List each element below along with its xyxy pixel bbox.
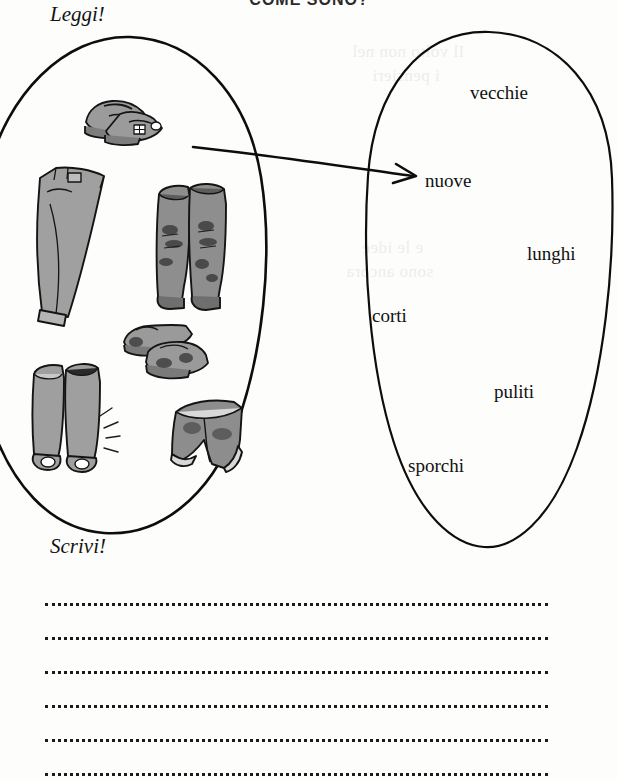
word-sporchi[interactable]: sporchi <box>408 455 464 477</box>
writing-line[interactable] <box>45 708 548 742</box>
trousers-long-illustration <box>20 162 112 332</box>
writing-line[interactable] <box>45 606 548 640</box>
writing-line[interactable] <box>45 572 548 606</box>
word-vecchie[interactable]: vecchie <box>470 82 528 104</box>
worksheet-page: Il volto non nel i pensieri e le idee so… <box>0 0 618 779</box>
bleed-through-text: sono ancora <box>346 262 433 282</box>
word-corti[interactable]: corti <box>372 305 407 327</box>
shorts-short-illustration <box>162 394 252 476</box>
shoes-clean-illustration <box>74 88 184 148</box>
word-oval-outline <box>366 32 612 547</box>
shoes-dirty-illustration <box>118 318 214 388</box>
picture-oval-outline <box>0 37 266 533</box>
writing-lines <box>45 572 548 776</box>
boots-dirty-illustration <box>150 178 236 318</box>
bleed-through-text: i pensieri <box>372 66 440 86</box>
writing-line[interactable] <box>45 674 548 708</box>
writing-line[interactable] <box>45 640 548 674</box>
writing-line[interactable] <box>45 742 548 776</box>
boots-clean-illustration <box>28 358 122 478</box>
match-arrow <box>193 147 416 183</box>
scrivi-label: Scrivi! <box>50 534 106 559</box>
word-nuove[interactable]: nuove <box>425 170 471 192</box>
bleed-through-text: e le idee <box>362 238 423 258</box>
bleed-through-text: Il volto non nel <box>352 42 464 62</box>
word-lunghi[interactable]: lunghi <box>527 243 576 265</box>
word-puliti[interactable]: puliti <box>494 381 534 403</box>
leggi-label: Leggi! <box>50 2 105 27</box>
